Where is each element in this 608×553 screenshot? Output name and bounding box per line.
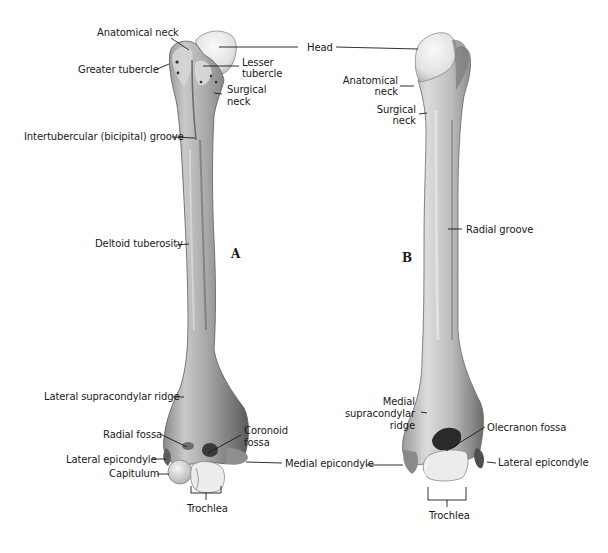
label-trochlea-a: Trochlea [187, 503, 228, 514]
label-medial-supracondylar-ridge-line3: ridge [340, 420, 415, 431]
label-intertubercular-groove: Intertubercular (bicipital) groove [24, 131, 184, 142]
label-surgical-neck-a-line1: Surgical [227, 84, 266, 95]
label-medial-supracondylar-ridge-line2: supracondylar [340, 408, 415, 419]
label-anatomical-neck-b-line1: Anatomical [340, 75, 398, 86]
label-anatomical-neck-b-line2: neck [340, 86, 398, 97]
label-surgical-neck-a-line2: neck [227, 96, 250, 107]
label-lesser-tubercle-line2: tubercle [242, 68, 282, 79]
label-lesser-tubercle-line1: Lesser [242, 57, 274, 68]
label-coronoid-fossa-line1: Coronoid [244, 425, 288, 436]
label-lateral-epicondyle-b: Lateral epicondyle [498, 457, 589, 468]
label-medial-supracondylar-ridge-line1: Medial [340, 396, 415, 407]
label-greater-tubercle: Greater tubercle [78, 64, 159, 75]
label-coronoid-fossa-line2: fossa [244, 437, 270, 448]
label-head: Head [307, 42, 333, 53]
panel-label-b: B [402, 251, 412, 265]
label-capitulum: Capitulum [109, 468, 159, 479]
label-surgical-neck-b-line2: neck [362, 115, 416, 126]
label-radial-groove: Radial groove [466, 224, 533, 235]
label-trochlea-b: Trochlea [429, 510, 470, 521]
label-radial-fossa: Radial fossa [103, 429, 162, 440]
label-lateral-epicondyle-a: Lateral epicondyle [66, 454, 157, 465]
bone-illustrations [0, 0, 608, 553]
label-surgical-neck-b-line1: Surgical [362, 104, 416, 115]
label-deltoid-tuberosity: Deltoid tuberosity [95, 238, 183, 249]
panel-label-a: A [231, 247, 240, 261]
label-lateral-supracondylar-ridge: Lateral supracondylar ridge [44, 391, 180, 402]
label-anatomical-neck-a: Anatomical neck [97, 27, 179, 38]
label-medial-epicondyle: Medial epicondyle [285, 458, 374, 469]
label-olecranon-fossa: Olecranon fossa [487, 422, 566, 433]
humerus-figure: Anatomical neck Greater tubercle Lesser … [0, 0, 608, 553]
